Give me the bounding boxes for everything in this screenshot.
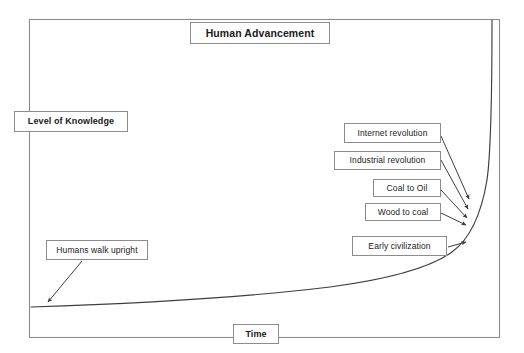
- callout-early-civilization: Early civilization: [352, 236, 447, 256]
- arrow-humans-walk-upright: [48, 261, 82, 302]
- callout-internet-revolution: Internet revolution: [344, 123, 441, 143]
- chart-graphics: [0, 0, 524, 353]
- arrow-wood-to-coal: [441, 213, 466, 225]
- arrow-coal-to-oil: [441, 190, 467, 218]
- callout-humans-walk-upright: Humans walk upright: [46, 240, 148, 260]
- chart-canvas: Human Advancement Level of Knowledge Tim…: [0, 0, 524, 353]
- callout-industrial-revolution: Industrial revolution: [334, 151, 441, 170]
- chart-title: Human Advancement: [190, 22, 330, 44]
- x-axis-label: Time: [233, 324, 279, 344]
- callout-coal-to-oil: Coal to Oil: [373, 179, 441, 197]
- y-axis-label: Level of Knowledge: [14, 111, 128, 132]
- callout-wood-to-coal: Wood to coal: [365, 203, 441, 221]
- arrow-early-civilization: [448, 242, 466, 247]
